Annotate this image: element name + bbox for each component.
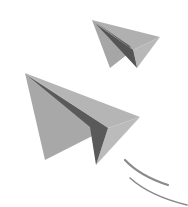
illustration-svg <box>0 0 188 207</box>
motion-lines-icon <box>125 160 187 205</box>
small-paper-plane-icon <box>92 20 160 68</box>
paper-airplanes-illustration: Two gray paper airplanes flying with mot… <box>0 0 188 207</box>
large-paper-plane-icon <box>25 73 140 165</box>
